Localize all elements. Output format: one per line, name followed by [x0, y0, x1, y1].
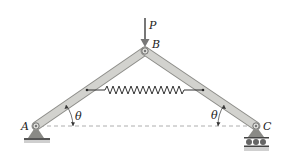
- angle-arrow-right2-icon: [217, 122, 221, 126]
- label-c: C: [263, 120, 272, 133]
- member-ab: [36, 51, 145, 126]
- pin-a: [33, 123, 39, 129]
- spring: [86, 86, 205, 94]
- truss-diagram: P B A C θ θ: [0, 0, 285, 159]
- label-theta-right: θ: [211, 109, 218, 122]
- label-b: B: [151, 38, 160, 51]
- pin-b: [142, 48, 148, 54]
- pin-c: [253, 123, 259, 129]
- label-p: P: [148, 19, 157, 32]
- label-a: A: [20, 120, 29, 133]
- label-theta-left: θ: [75, 110, 82, 123]
